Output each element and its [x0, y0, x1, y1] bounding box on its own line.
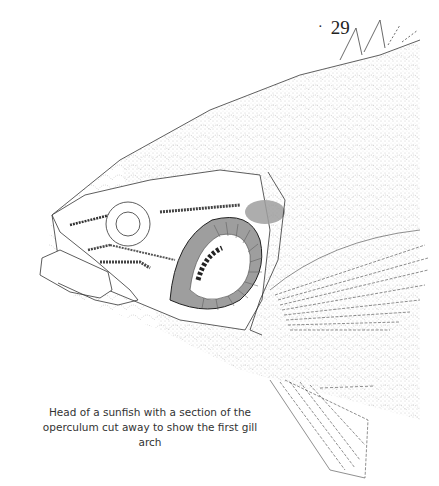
caption-line-2: operculum cut away to show the first gil…	[30, 420, 270, 450]
caption-line-1: Head of a sunfish with a section of the	[30, 405, 270, 420]
opercular-spot	[245, 200, 285, 224]
figure-caption: Head of a sunfish with a section of the …	[30, 405, 270, 450]
pupil	[116, 212, 140, 236]
